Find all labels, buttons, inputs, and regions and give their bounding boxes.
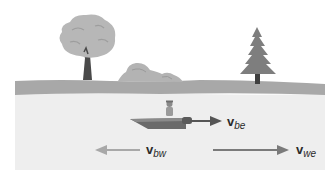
deciduous-tree-icon [60,15,116,80]
vbw-subscript: bw [153,148,166,159]
bush-icon [118,63,183,82]
vwe-label: vwe [296,143,316,156]
vwe-subscript: we [303,148,316,159]
vbe-subscript: be [234,120,245,131]
vbe-label: vbe [227,115,245,128]
pine-tree-icon [240,27,276,84]
vbw-label: vbw [146,143,166,156]
ground-strip [15,80,325,95]
